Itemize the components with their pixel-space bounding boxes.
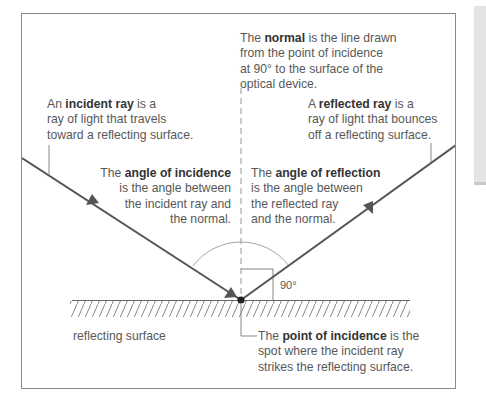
point-of-incidence [237,296,244,303]
angle-of-reflection-label: The angle of reflection is the angle bet… [251,166,380,228]
reflecting-surface-label: reflecting surface [73,329,166,344]
normal-label: The normal is the line drawn from the po… [240,31,397,93]
incident-ray-label: An incident ray is a ray of light that t… [47,97,193,143]
reflected-ray-label: A reflected ray is a ray of light that b… [308,97,437,143]
incident-arrow-icon [86,194,99,205]
incident-arrow-end-icon [224,287,237,298]
point-of-incidence-label: The point of incidence is the spot where… [258,329,419,375]
right-angle-label: 90° [280,279,297,291]
angle-of-incidence-label: The angle of incidence is the angle betw… [100,166,231,228]
